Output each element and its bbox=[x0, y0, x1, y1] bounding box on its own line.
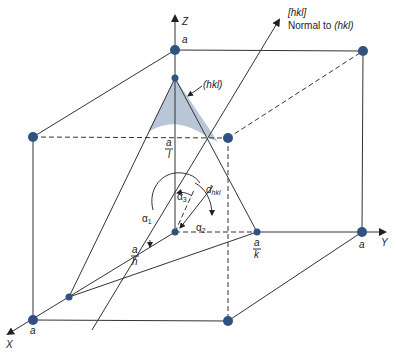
a-over-k-den: k bbox=[254, 249, 260, 260]
normal-label-line2: Normal to (hkl) bbox=[288, 20, 354, 31]
z-a-label: a bbox=[182, 34, 188, 45]
y-axis-label: Y bbox=[381, 237, 389, 248]
cube-hidden-edges bbox=[33, 51, 363, 321]
cube-edges bbox=[33, 50, 363, 321]
plane-label: (hkl) bbox=[203, 79, 222, 90]
y-a-label: a bbox=[359, 239, 365, 250]
a-over-h-den: h bbox=[132, 256, 138, 267]
x-a-label: a bbox=[30, 325, 36, 336]
a-over-k-num: a bbox=[254, 237, 260, 248]
normal-vector bbox=[92, 20, 279, 330]
normal-label-line1: [hkl] bbox=[287, 7, 307, 18]
a-over-h-num: a bbox=[132, 244, 138, 255]
a-over-l-num: a bbox=[166, 137, 172, 148]
miller-indices-diagram: Z Y X a a a (hkl) [hkl] Normal to (hkl) … bbox=[0, 0, 396, 354]
x-axis-label: X bbox=[5, 339, 13, 350]
lattice-points bbox=[28, 45, 368, 326]
plane-pointer bbox=[188, 86, 202, 96]
a-over-l-den: l bbox=[168, 149, 171, 160]
alpha2-label: α2 bbox=[196, 222, 206, 234]
alpha1-label: α1 bbox=[142, 213, 152, 225]
d-hkl-label: dhkl bbox=[206, 184, 221, 196]
z-axis-label: Z bbox=[181, 16, 189, 27]
